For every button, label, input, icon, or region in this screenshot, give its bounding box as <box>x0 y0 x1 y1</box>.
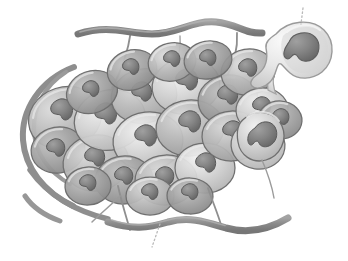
illustration-figure: Tumor cell cluster with escaping metasta… <box>0 0 348 261</box>
tumor-cluster-illustration-canvas <box>0 0 348 261</box>
detaching-cell-right <box>237 112 284 161</box>
